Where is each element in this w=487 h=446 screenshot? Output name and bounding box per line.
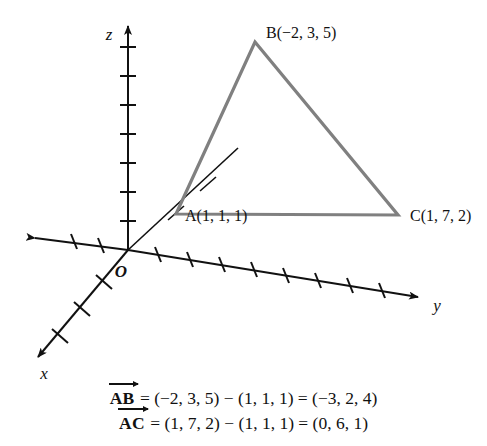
vector-equations: AB = (−2, 3, 5) − (1, 1, 1) = (−3, 2, 4)… <box>0 386 487 436</box>
point-label-c: C(1, 7, 2) <box>410 207 471 225</box>
y-axis-label: y <box>431 296 441 315</box>
point-label-b: B(−2, 3, 5) <box>266 24 336 42</box>
x-axis: x <box>38 148 238 383</box>
z-axis-label: z <box>105 25 113 44</box>
equation-ac: AC = (1, 7, 2) − (1, 1, 1) = (0, 6, 1) <box>0 411 487 436</box>
equation-ab: AB = (−2, 3, 5) − (1, 1, 1) = (−3, 2, 4) <box>0 386 487 411</box>
x-axis-label: x <box>39 364 48 383</box>
x-axis-ticks <box>52 275 112 343</box>
y-axis: y <box>35 234 441 315</box>
triangle-abc <box>176 42 398 215</box>
vector-ac-symbol: AC <box>119 411 145 436</box>
equation-ab-text: = (−2, 3, 5) − (1, 1, 1) = (−3, 2, 4) <box>140 388 377 408</box>
coordinate-diagram: z y <box>0 0 487 446</box>
equation-ac-text: = (1, 7, 2) − (1, 1, 1) = (0, 6, 1) <box>150 413 368 433</box>
z-axis: z <box>105 25 136 250</box>
point-label-a: A(1, 1, 1) <box>185 207 247 225</box>
origin-label: O <box>115 262 127 281</box>
